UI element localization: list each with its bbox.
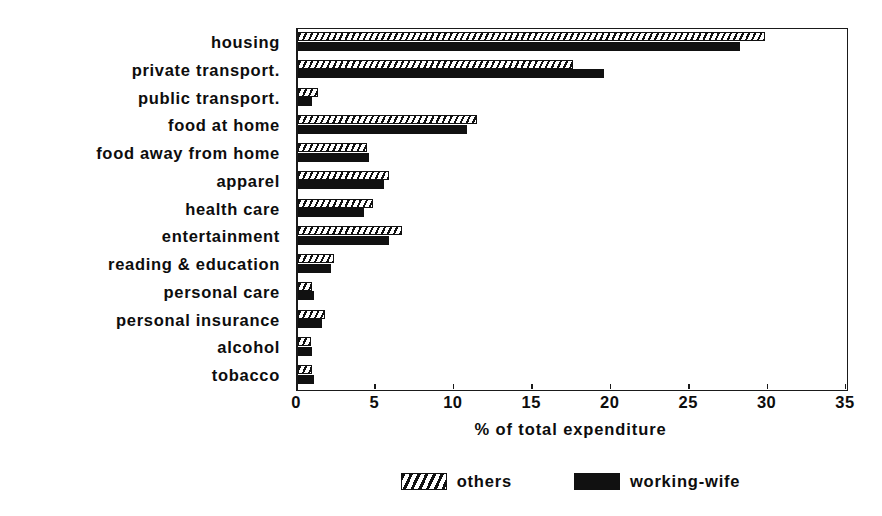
bar-others <box>298 226 402 235</box>
bar-working-wife <box>298 264 331 273</box>
bar-working-wife <box>298 319 322 328</box>
bar-working-wife <box>298 180 384 189</box>
bar-others <box>298 60 573 69</box>
bar-working-wife <box>298 347 312 356</box>
legend-label-others: others <box>457 472 512 491</box>
bar-group <box>298 362 847 391</box>
bar-chart: housingprivate transport.public transpor… <box>0 0 882 516</box>
category-label: reading & education <box>108 250 280 279</box>
x-tick-mark <box>531 384 532 389</box>
x-tick-mark <box>610 384 611 389</box>
bar-group <box>298 307 847 336</box>
bar-others <box>298 115 477 124</box>
x-axis-title: % of total expenditure <box>296 420 845 439</box>
bar-working-wife <box>298 236 389 245</box>
category-label: entertainment <box>162 222 280 251</box>
x-tick-mark <box>688 384 689 389</box>
bar-working-wife <box>298 69 604 78</box>
x-tick-mark <box>374 384 375 389</box>
bar-group <box>298 57 847 86</box>
bar-group <box>298 85 847 114</box>
bar-group <box>298 251 847 280</box>
bar-working-wife <box>298 125 467 134</box>
bar-others <box>298 282 312 291</box>
category-label: public transport. <box>138 84 280 113</box>
category-label: food at home <box>168 111 280 140</box>
legend-entry-others: others <box>401 472 512 491</box>
bar-working-wife <box>298 97 312 106</box>
bar-others <box>298 310 325 319</box>
bar-working-wife <box>298 291 314 300</box>
bars-layer <box>298 29 847 390</box>
bar-group <box>298 334 847 363</box>
black-swatch-icon <box>574 473 620 490</box>
x-tick-label: 30 <box>757 393 776 412</box>
legend-entry-working-wife: working-wife <box>574 472 740 491</box>
bar-others <box>298 171 389 180</box>
x-tick-mark <box>296 384 297 389</box>
category-label: housing <box>211 28 280 57</box>
bar-others <box>298 143 367 152</box>
x-tick-mark <box>845 384 846 389</box>
category-label: personal care <box>164 278 280 307</box>
x-tick-label: 10 <box>443 393 462 412</box>
plot-area <box>296 28 848 391</box>
x-tick-label: 20 <box>600 393 619 412</box>
bar-group <box>298 140 847 169</box>
category-label: personal insurance <box>116 306 280 335</box>
category-label: private transport. <box>132 56 280 85</box>
x-tick-label: 0 <box>291 393 301 412</box>
bar-group <box>298 112 847 141</box>
bar-group <box>298 196 847 225</box>
hatched-swatch-icon <box>401 473 447 490</box>
bar-others <box>298 337 311 346</box>
x-axis-tick-labels: 05101520253035 <box>296 393 845 417</box>
bar-group <box>298 29 847 58</box>
bar-working-wife <box>298 375 314 384</box>
legend-label-working-wife: working-wife <box>630 472 740 491</box>
x-tick-mark <box>453 384 454 389</box>
bar-others <box>298 199 373 208</box>
bar-group <box>298 223 847 252</box>
bar-others <box>298 88 318 97</box>
category-label: health care <box>185 195 280 224</box>
bar-group <box>298 168 847 197</box>
bar-working-wife <box>298 153 369 162</box>
x-tick-label: 15 <box>522 393 541 412</box>
bar-working-wife <box>298 208 364 217</box>
x-tick-label: 5 <box>370 393 380 412</box>
bar-others <box>298 254 334 263</box>
bar-working-wife <box>298 42 740 51</box>
x-tick-mark <box>767 384 768 389</box>
category-label: food away from home <box>96 139 280 168</box>
category-label: alcohol <box>217 333 280 362</box>
x-tick-label: 25 <box>678 393 697 412</box>
category-label: tobacco <box>212 361 280 390</box>
category-label: apparel <box>216 167 280 196</box>
bar-others <box>298 365 312 374</box>
chart-legend: others working-wife <box>296 466 845 496</box>
category-axis: housingprivate transport.public transpor… <box>0 28 288 389</box>
x-tick-label: 35 <box>835 393 854 412</box>
bar-others <box>298 32 765 41</box>
bar-group <box>298 279 847 308</box>
